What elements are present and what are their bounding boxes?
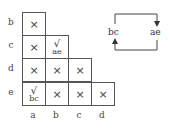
exchange-cycle-arrows: [0, 0, 172, 131]
legend-label-ae: ae: [150, 27, 161, 37]
legend-label-bc: bc: [108, 27, 119, 37]
